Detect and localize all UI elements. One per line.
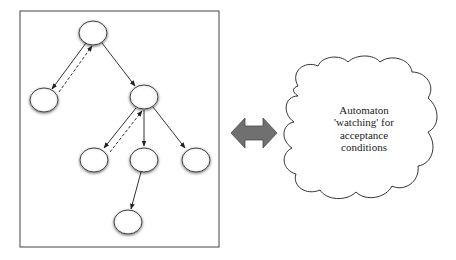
edge-root-mid [102, 43, 135, 86]
node-mid [130, 85, 158, 109]
node-child-3 [182, 148, 210, 172]
cloud-label-line-4: conditions [314, 141, 414, 153]
edge-c2-leaf [131, 172, 141, 209]
cloud-label-line-1: Automaton [314, 104, 414, 116]
edge-c1-mid-dashed [110, 111, 142, 152]
node-child-2 [130, 148, 158, 172]
cloud-label: Automaton 'watching' for acceptance cond… [314, 104, 414, 153]
cloud-label-line-2: 'watching' for [314, 116, 414, 128]
edge-root-left [52, 43, 86, 89]
edge-mid-c1 [104, 108, 136, 148]
edge-mid-c3 [153, 107, 185, 148]
node-root [79, 21, 107, 45]
node-leaf [114, 210, 142, 234]
tree-edges [52, 43, 185, 209]
node-child-1 [80, 148, 108, 172]
node-left [30, 88, 58, 112]
double-arrow-icon [231, 118, 277, 148]
edge-left-root-dashed [59, 46, 92, 92]
cloud-label-line-3: acceptance [314, 129, 414, 141]
